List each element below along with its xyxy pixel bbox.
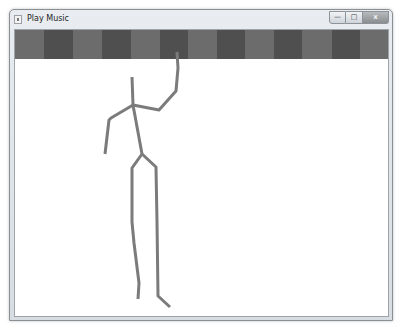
maximize-button[interactable]: □ xyxy=(346,11,363,24)
stick-figure xyxy=(15,30,389,317)
minimize-button[interactable]: — xyxy=(329,11,346,24)
figure-right-arm xyxy=(133,52,178,110)
figure-neck xyxy=(132,77,133,105)
close-button[interactable]: x xyxy=(363,11,389,24)
figure-left-arm xyxy=(105,105,133,154)
window-title: Play Music xyxy=(27,14,69,23)
figure-spine xyxy=(133,105,142,154)
title-bar[interactable]: Play Music — □ x xyxy=(10,10,392,30)
app-window: Play Music — □ x xyxy=(9,9,393,321)
figure-right-leg xyxy=(142,154,170,307)
app-icon[interactable] xyxy=(14,15,22,24)
minimize-icon: — xyxy=(330,12,345,23)
figure-left-leg xyxy=(132,154,142,299)
maximize-icon: □ xyxy=(346,12,362,23)
client-area[interactable] xyxy=(14,29,389,317)
close-icon: x xyxy=(363,12,388,23)
